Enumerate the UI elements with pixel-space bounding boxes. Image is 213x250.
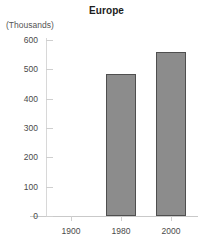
y-axis-unit-label: (Thousands) [6, 20, 54, 30]
y-tick-mark [46, 99, 53, 100]
x-axis-line [30, 216, 198, 217]
x-tick-mark [171, 216, 172, 221]
chart-title: Europe [0, 5, 213, 16]
y-tick-label: 300 [0, 123, 38, 133]
y-tick-label: 600 [0, 35, 38, 45]
y-tick-mark [46, 128, 53, 129]
y-tick-label: 100 [0, 182, 38, 192]
bar [156, 52, 186, 216]
y-tick-label: 500 [0, 64, 38, 74]
y-tick-label: 200 [0, 152, 38, 162]
y-tick-mark [46, 157, 53, 158]
y-tick-mark [46, 216, 53, 217]
y-tick-mark [46, 69, 53, 70]
bar [106, 74, 136, 216]
x-tick-mark [121, 216, 122, 221]
y-tick-label: 400 [0, 94, 38, 104]
y-tick-label: 0 [0, 211, 38, 221]
y-tick-mark [46, 187, 53, 188]
x-tick-label: 2000 [141, 226, 201, 236]
bar-chart: Europe (Thousands) 0100200300400500600 1… [0, 0, 213, 250]
y-tick-mark [46, 40, 53, 41]
x-tick-mark [71, 216, 72, 221]
